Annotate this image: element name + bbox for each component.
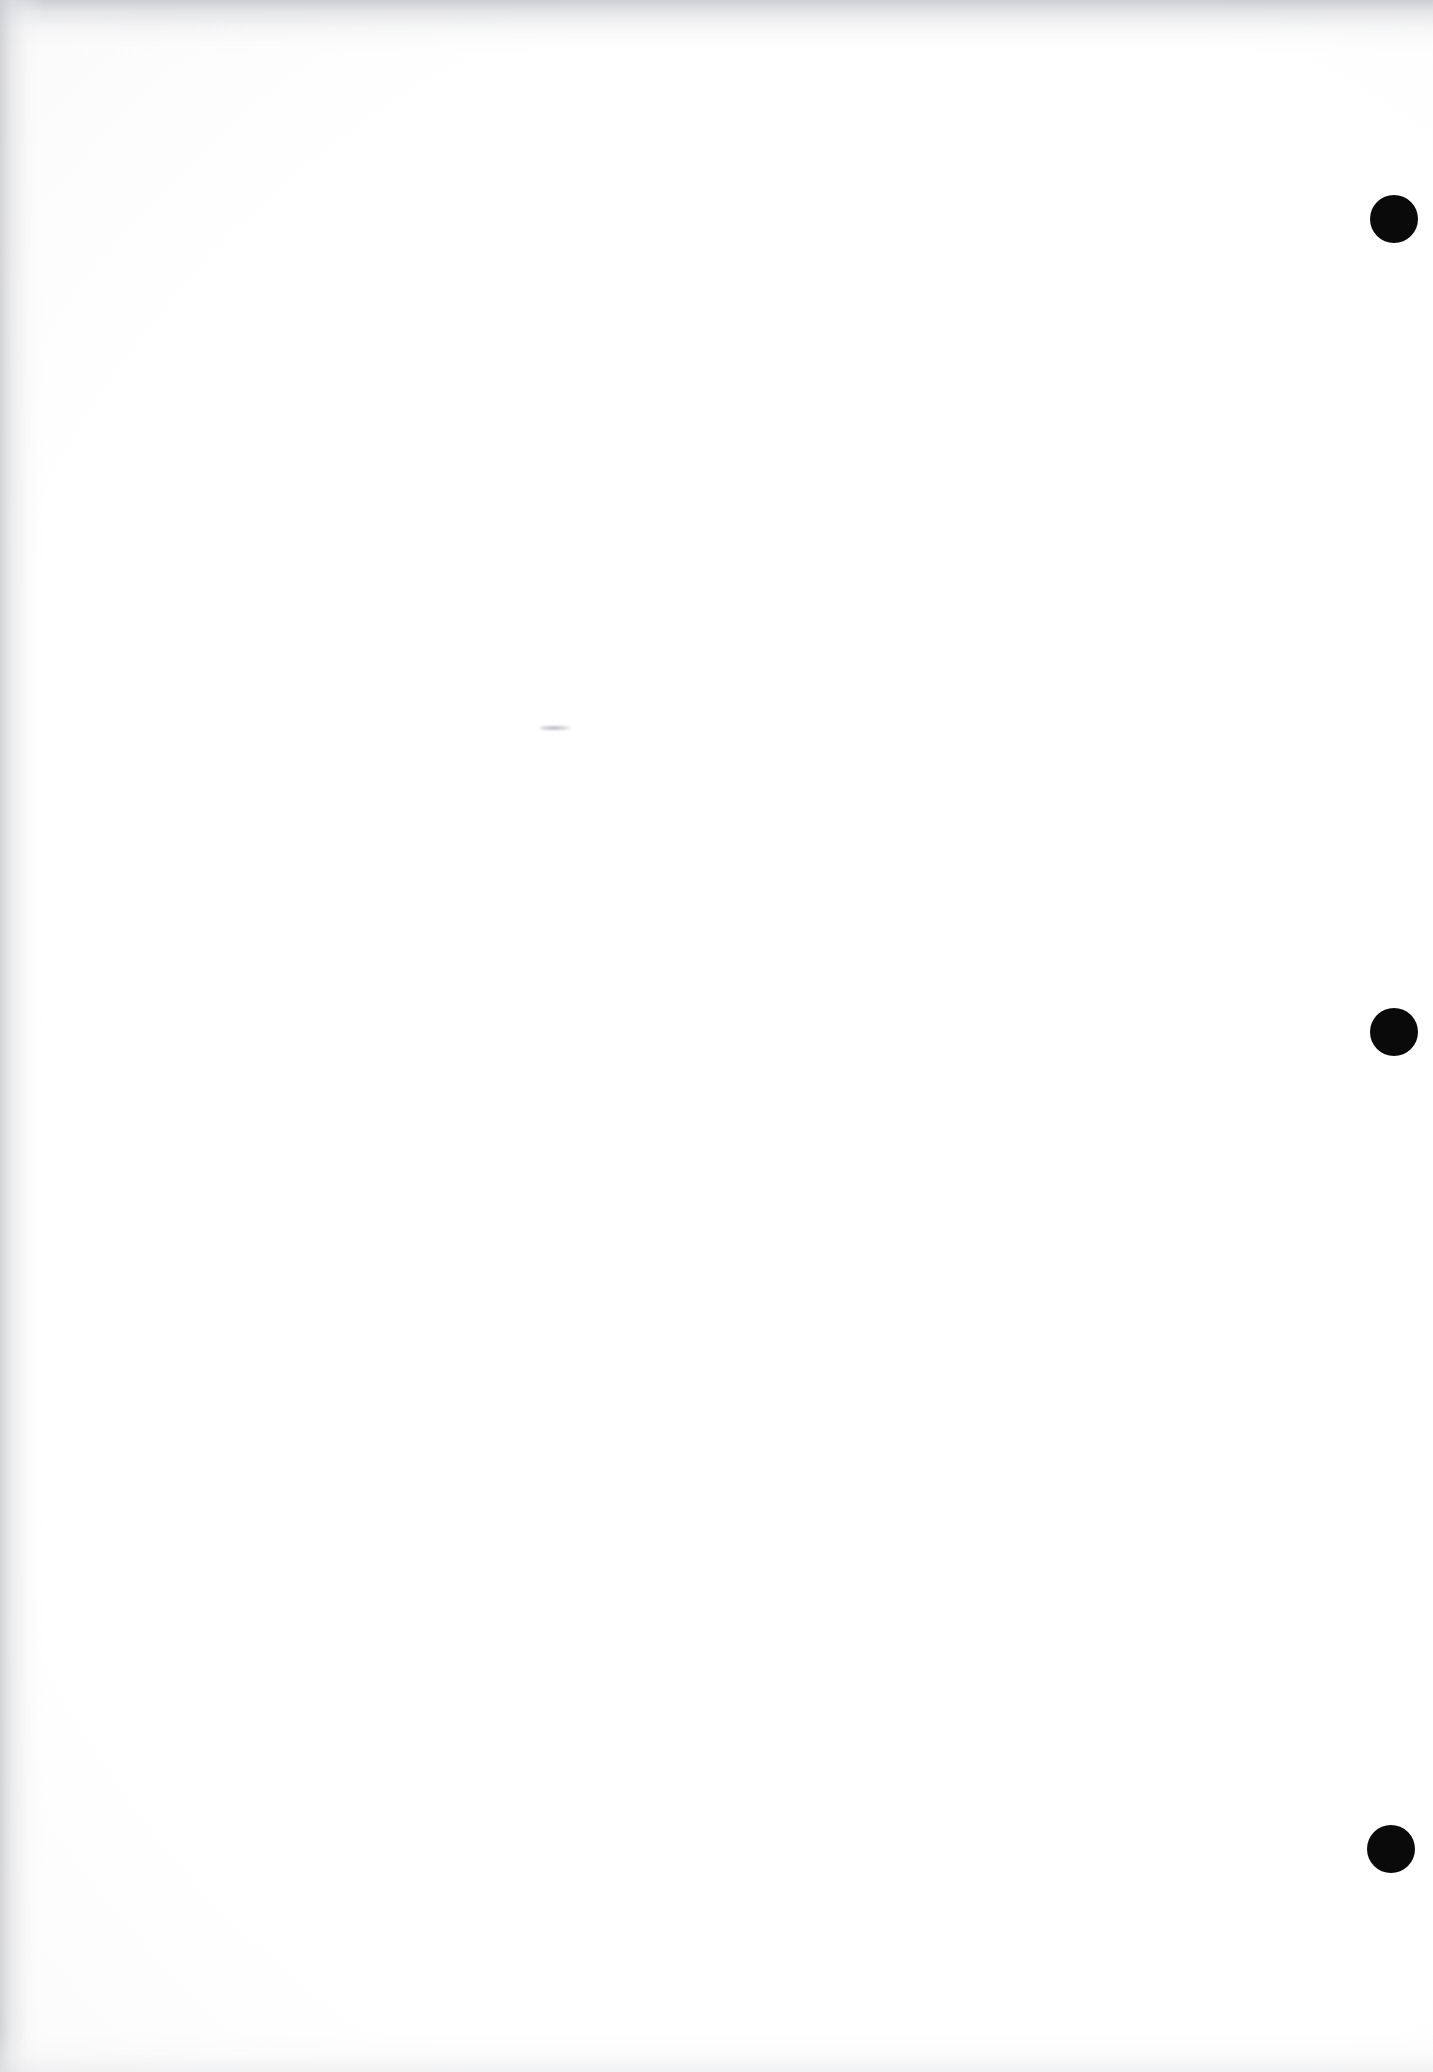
- registration-dot-1: [1370, 195, 1418, 243]
- registration-dot-3: [1367, 1825, 1415, 1873]
- scanned-page-canvas: [0, 0, 1433, 2072]
- paper-background: [0, 0, 1433, 2072]
- registration-dot-2: [1370, 1008, 1418, 1056]
- stray-pencil-mark: [538, 726, 572, 730]
